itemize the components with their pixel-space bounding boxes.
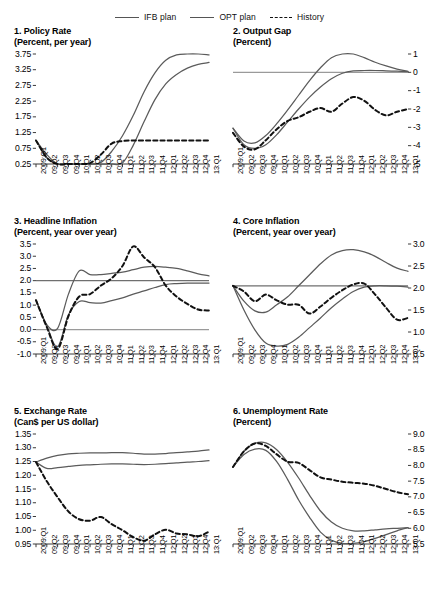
x-axis-tick-label: 11:Q3: [346, 535, 355, 554]
x-axis-tick-label: 09:Q3: [61, 155, 70, 174]
x-axis-tick-label: 09:Q3: [258, 345, 267, 364]
x-axis-tick-label: 09:Q4: [72, 535, 81, 554]
y-axis-tick-label: 1: [413, 49, 418, 59]
series-line: [233, 286, 408, 346]
y-axis-tick-label: 0.75: [0, 143, 31, 153]
x-axis-tick-label: 10:Q1: [280, 345, 289, 364]
y-axis-tick-label: 2.5: [413, 261, 424, 271]
x-axis-tick-label: 11:Q3: [147, 345, 156, 364]
y-axis-tick-label: 8.5: [413, 444, 424, 454]
panel-exchange-rate: 5. Exchange Rate (Can$ per US dollar) 20…: [0, 406, 219, 590]
x-axis-tick-label: 09:Q2: [247, 155, 256, 174]
y-axis-tick-label: 2.5: [0, 263, 31, 273]
x-axis-tick-label: 12:Q3: [389, 535, 398, 554]
x-axis-tick-label: 10:Q3: [104, 155, 113, 174]
x-axis-tick-label: 10:Q1: [82, 345, 91, 364]
panel-title: 1. Policy Rate: [0, 26, 219, 37]
y-axis-tick-label: 0.5: [0, 312, 31, 322]
x-axis-tick-label: 12:Q3: [191, 155, 200, 174]
x-axis-labels: 2009:Q109:Q209:Q309:Q410:Q110:Q210:Q310:…: [219, 552, 438, 590]
x-axis-tick-label: 09:Q4: [72, 345, 81, 364]
y-axis-tick-label: 2.75: [0, 80, 31, 90]
x-axis-tick-label: 09:Q3: [61, 535, 70, 554]
x-axis-tick-label: 2009:Q1: [236, 337, 245, 364]
x-axis-tick-label: 11:Q3: [147, 535, 156, 554]
x-axis-tick-label: 10:Q2: [291, 535, 300, 554]
x-axis-tick-label: 11:Q2: [137, 535, 146, 554]
x-axis-tick-label: 10:Q4: [115, 345, 124, 364]
y-axis-tick-label: 2.0: [0, 275, 31, 285]
legend-swatch-dashed-icon: [270, 17, 292, 18]
x-axis-tick-label: 12:Q2: [378, 535, 387, 554]
y-axis-tick-label: 1.0: [413, 327, 424, 337]
series-line: [233, 443, 408, 494]
x-axis-tick-label: 12:Q4: [201, 155, 210, 174]
x-axis-tick-label: 12:Q1: [367, 535, 376, 554]
x-axis-tick-label: 12:Q2: [180, 535, 189, 554]
panel-subtitle: (Percent): [219, 417, 438, 428]
x-axis-tick-label: 11:Q3: [346, 155, 355, 174]
x-axis-tick-label: 10:Q2: [93, 345, 102, 364]
x-axis-tick-label: 12:Q2: [180, 155, 189, 174]
x-axis-tick-label: 12:Q3: [191, 345, 200, 364]
y-axis-tick-label: 8.0: [413, 460, 424, 470]
panel-headline-inflation: 3. Headline Inflation (Percent, year ove…: [0, 216, 219, 404]
panel-title: 4. Core Inflation: [219, 216, 438, 227]
chart-grid: 1. Policy Rate (Percent, per year) 2009:…: [0, 26, 439, 590]
x-axis-tick-label: 2009:Q1: [39, 337, 48, 364]
x-axis-tick-label: 11:Q3: [147, 155, 156, 174]
x-axis-tick-label: 11:Q4: [158, 155, 167, 174]
chart-legend: IFB plan OPT plan History: [0, 8, 439, 26]
panel-output-gap: 2. Output Gap (Percent) 2009:Q109:Q209:Q…: [219, 26, 438, 214]
panel-core-inflation: 4. Core Inflation (Percent, year over ye…: [219, 216, 438, 404]
panel-unemployment-rate: 6. Unemployment Rate (Percent) 2009:Q109…: [219, 406, 438, 590]
x-axis-tick-label: 12:Q2: [378, 345, 387, 364]
x-axis-tick-label: 12:Q2: [378, 155, 387, 174]
x-axis-tick-label: 10:Q3: [302, 535, 311, 554]
x-axis-tick-label: 12:Q3: [389, 345, 398, 364]
x-axis-tick-label: 11:Q1: [324, 535, 333, 554]
x-axis-tick-label: 09:Q4: [72, 155, 81, 174]
x-axis-tick-label: 09:Q4: [269, 535, 278, 554]
x-axis-tick-label: 09:Q2: [247, 345, 256, 364]
plot-area: [219, 240, 438, 360]
y-axis-tick-label: -1.0: [0, 349, 31, 359]
series-line: [36, 462, 209, 541]
legend-label-history: History: [297, 12, 324, 22]
legend-swatch-solid-icon: [115, 17, 139, 18]
y-axis-tick-label: 1.35: [0, 429, 31, 439]
x-axis-tick-label: 12:Q4: [400, 155, 409, 174]
y-axis-tick-label: -1: [413, 85, 420, 95]
x-axis-tick-label: 09:Q3: [258, 535, 267, 554]
y-axis-tick-label: -0.5: [0, 336, 31, 346]
legend-item-ifb: IFB plan: [115, 12, 176, 22]
y-axis-tick-label: 0.25: [0, 159, 31, 169]
legend-label-opt: OPT plan: [219, 12, 256, 22]
x-axis-tick-label: 12:Q4: [400, 535, 409, 554]
x-axis-tick-label: 12:Q1: [169, 345, 178, 364]
x-axis-tick-label: 2009:Q1: [236, 147, 245, 174]
x-axis-tick-label: 10:Q3: [104, 535, 113, 554]
y-axis-tick-label: 0.95: [0, 539, 31, 549]
x-axis-tick-label: 11:Q1: [324, 155, 333, 174]
x-axis-tick-label: 09:Q4: [269, 155, 278, 174]
series-line: [36, 461, 209, 469]
y-axis-tick-label: 0.5: [413, 349, 424, 359]
x-axis-tick-label: 11:Q4: [357, 155, 366, 174]
y-axis-tick-label: 2.0: [413, 283, 424, 293]
x-axis-tick-label: 11:Q3: [346, 345, 355, 364]
x-axis-tick-label: 12:Q3: [191, 535, 200, 554]
plot-area: [0, 430, 219, 550]
x-axis-tick-label: 09:Q3: [258, 155, 267, 174]
y-axis-tick-label: -4: [413, 140, 420, 150]
x-axis-tick-label: 11:Q2: [137, 155, 146, 174]
x-axis-tick-label: 10:Q2: [93, 535, 102, 554]
x-axis-tick-label: 11:Q1: [126, 535, 135, 554]
x-axis-tick-label: 2009:Q1: [39, 527, 48, 554]
y-axis-tick-label: -5: [413, 159, 420, 169]
x-axis-tick-label: 10:Q4: [313, 535, 322, 554]
x-axis-tick-label: 12:Q1: [367, 155, 376, 174]
y-axis-tick-label: 1.30: [0, 442, 31, 452]
series-line: [36, 266, 209, 330]
panel-subtitle: (Percent, year over year): [219, 227, 438, 238]
